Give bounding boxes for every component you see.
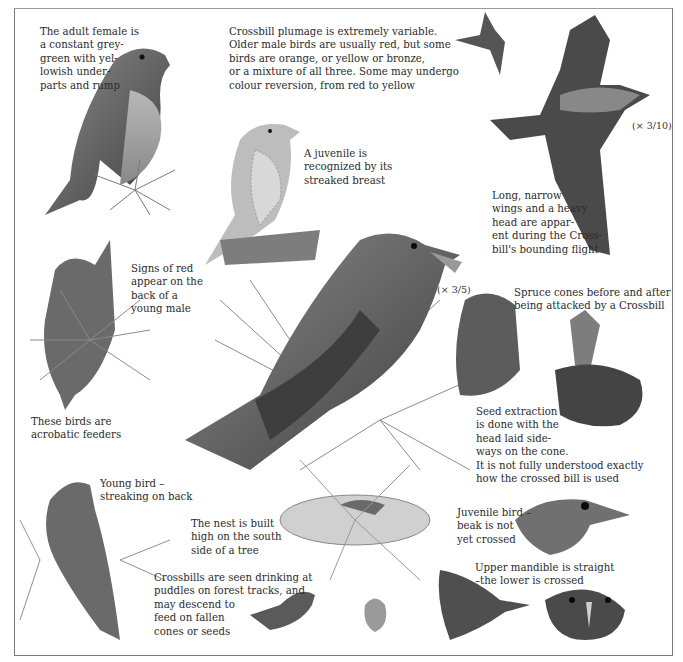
small-flying-bird-illustration [455, 12, 505, 75]
scale-flight: (× 3/10) [632, 120, 672, 131]
caption-plumage: Crossbill plumage is extremely variable.… [229, 25, 459, 92]
caption-nest: The nest is built high on the south side… [191, 517, 282, 557]
caption-juvenile-bird: Juvenile bird – beak is not yet crossed [457, 506, 531, 546]
scale-main: (× 3/5) [437, 284, 471, 295]
young-bird-back-illustration [20, 482, 170, 640]
caption-young-bird: Young bird – streaking on back [100, 477, 192, 504]
juvenile-head-illustration [515, 499, 630, 555]
caption-juvenile: A juvenile is recognized by its streaked… [304, 147, 392, 187]
caption-adult-female: The adult female is a constant grey- gre… [40, 25, 139, 92]
caption-mandible: Upper mandible is straight –the lower is… [475, 561, 614, 588]
nest-illustration [280, 460, 430, 580]
adult-male-illustration [185, 234, 462, 470]
caption-acrobatic: These birds are acrobatic feeders [31, 415, 121, 442]
spruce-cone-after-illustration [570, 310, 600, 370]
caption-spruce-cones: Spruce cones before and after being atta… [514, 286, 671, 313]
caption-drinking: Crossbills are seen drinking at puddles … [154, 571, 312, 638]
caption-flight: Long, narrow wings and a heavy head are … [492, 189, 602, 256]
caption-seed-extraction: Seed extraction is done with the head la… [476, 405, 644, 485]
caption-young-male: Signs of red appear on the back of a you… [131, 262, 203, 316]
spruce-cone-before-illustration [456, 294, 520, 396]
standing-bird-illustration [364, 599, 386, 633]
juvenile-illustration [205, 124, 320, 265]
head-front-view-illustration [545, 590, 625, 640]
